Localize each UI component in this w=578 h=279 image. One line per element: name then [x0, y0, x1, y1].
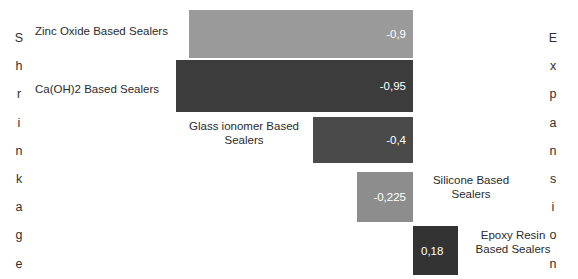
plot-area: -0,9Zinc Oxide Based Sealers-0,95Ca(OH)2… [0, 0, 578, 279]
bar-zinc-oxide[interactable]: -0,9 [189, 10, 413, 58]
bar-value-label-epoxy-resin: 0,18 [421, 245, 443, 257]
bar-value-label-silicone: -0,225 [373, 191, 406, 203]
bar-glass-ionomer[interactable]: -0,4 [313, 117, 413, 163]
bar-silicone[interactable]: -0,225 [357, 172, 413, 222]
bar-ca-oh-2[interactable]: -0,95 [176, 60, 413, 112]
shrinkage-expansion-bar-chart: S h r i n k a g e E x p a n s i o n -0,9… [0, 0, 578, 279]
category-label-silicone: Silicone Based Sealers [417, 174, 525, 201]
category-label-ca-oh-2: Ca(OH)2 Based Sealers [35, 83, 175, 97]
bar-value-label-zinc-oxide: -0,9 [386, 28, 406, 40]
bar-value-label-glass-ionomer: -0,4 [386, 134, 406, 146]
bar-value-label-ca-oh-2: -0,95 [380, 80, 406, 92]
category-label-glass-ionomer: Glass ionomer Based Sealers [178, 120, 310, 147]
category-label-epoxy-resin: Epoxy Resin Based Sealers [457, 229, 569, 256]
category-label-zinc-oxide: Zinc Oxide Based Sealers [35, 25, 183, 39]
bar-epoxy-resin[interactable]: 0,18 [413, 226, 458, 275]
